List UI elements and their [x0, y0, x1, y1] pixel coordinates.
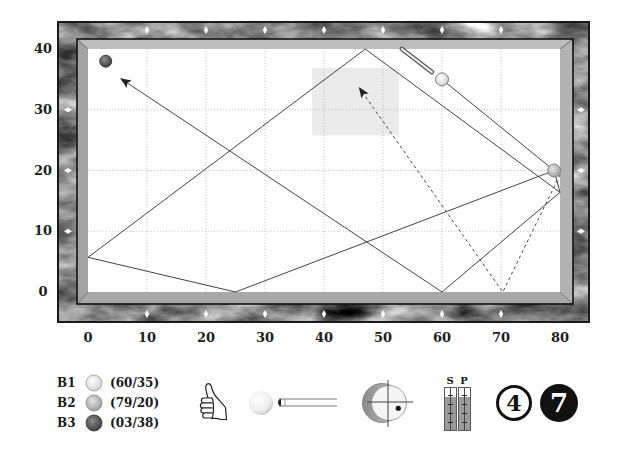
ball-b1-icon — [85, 374, 103, 392]
x-tick-label: 50 — [368, 331, 398, 345]
gauge-tick — [462, 413, 467, 414]
billiards-shot-diagram: 40 30 20 10 0 0 10 20 30 40 50 60 70 80 … — [0, 0, 618, 459]
legend-row-b1: B1 (60/35) — [57, 374, 177, 392]
x-tick-label: 0 — [73, 331, 103, 345]
y-tick-label: 40 — [28, 42, 58, 56]
y-tick-label: 30 — [28, 103, 58, 117]
target-zone-layer — [312, 68, 399, 135]
spin-indicator-icon — [358, 380, 416, 428]
ball-b2 — [548, 164, 561, 177]
power-gauge — [458, 387, 471, 431]
x-tick-label: 60 — [427, 331, 457, 345]
gauge-tick — [462, 395, 467, 396]
legend-ball-label: B3 — [57, 415, 76, 431]
target-zone — [312, 68, 399, 135]
ball-b1 — [436, 73, 449, 86]
x-tick-label: 10 — [132, 331, 162, 345]
legend-ball-coords: (03/38) — [110, 415, 159, 431]
gauge-tick — [462, 404, 467, 405]
speed-gauge-label: S — [443, 375, 457, 387]
y-tick-label: 20 — [28, 164, 58, 178]
gauge-tick — [448, 404, 453, 405]
legend-row-b3: B3 (03/38) — [57, 414, 177, 432]
legend-ball-label: B1 — [57, 375, 76, 391]
thumbs-up-icon — [198, 382, 228, 421]
cue-ball-and-stick-icon — [246, 388, 338, 418]
gauge-tick — [448, 395, 453, 396]
legend-ball-coords: (79/20) — [110, 395, 159, 411]
ball-b3-icon — [85, 414, 103, 432]
ball-b2-icon — [85, 394, 103, 412]
x-tick-label: 20 — [191, 331, 221, 345]
power-gauge-label: P — [457, 375, 471, 387]
x-tick-label: 40 — [309, 331, 339, 345]
outlined-number-badge: 4 — [496, 385, 532, 421]
speed-gauge — [444, 387, 457, 431]
x-tick-label: 80 — [545, 331, 575, 345]
x-tick-label: 30 — [250, 331, 280, 345]
y-tick-label: 0 — [28, 285, 58, 299]
ball-b3 — [100, 55, 112, 67]
gauge-tick — [448, 422, 453, 423]
gauge-tick — [462, 422, 467, 423]
legend-ball-coords: (60/35) — [110, 375, 159, 391]
cue-ball-icon — [249, 391, 273, 415]
filled-number-badge: 7 — [540, 384, 578, 422]
spin-point-icon — [396, 406, 401, 411]
y-tick-label: 10 — [28, 224, 58, 238]
x-tick-label: 70 — [486, 331, 516, 345]
gauge-tick — [448, 413, 453, 414]
cue-stick-icon — [278, 399, 337, 406]
legend-row-b2: B2 (79/20) — [57, 394, 177, 412]
legend-ball-label: B2 — [57, 395, 76, 411]
